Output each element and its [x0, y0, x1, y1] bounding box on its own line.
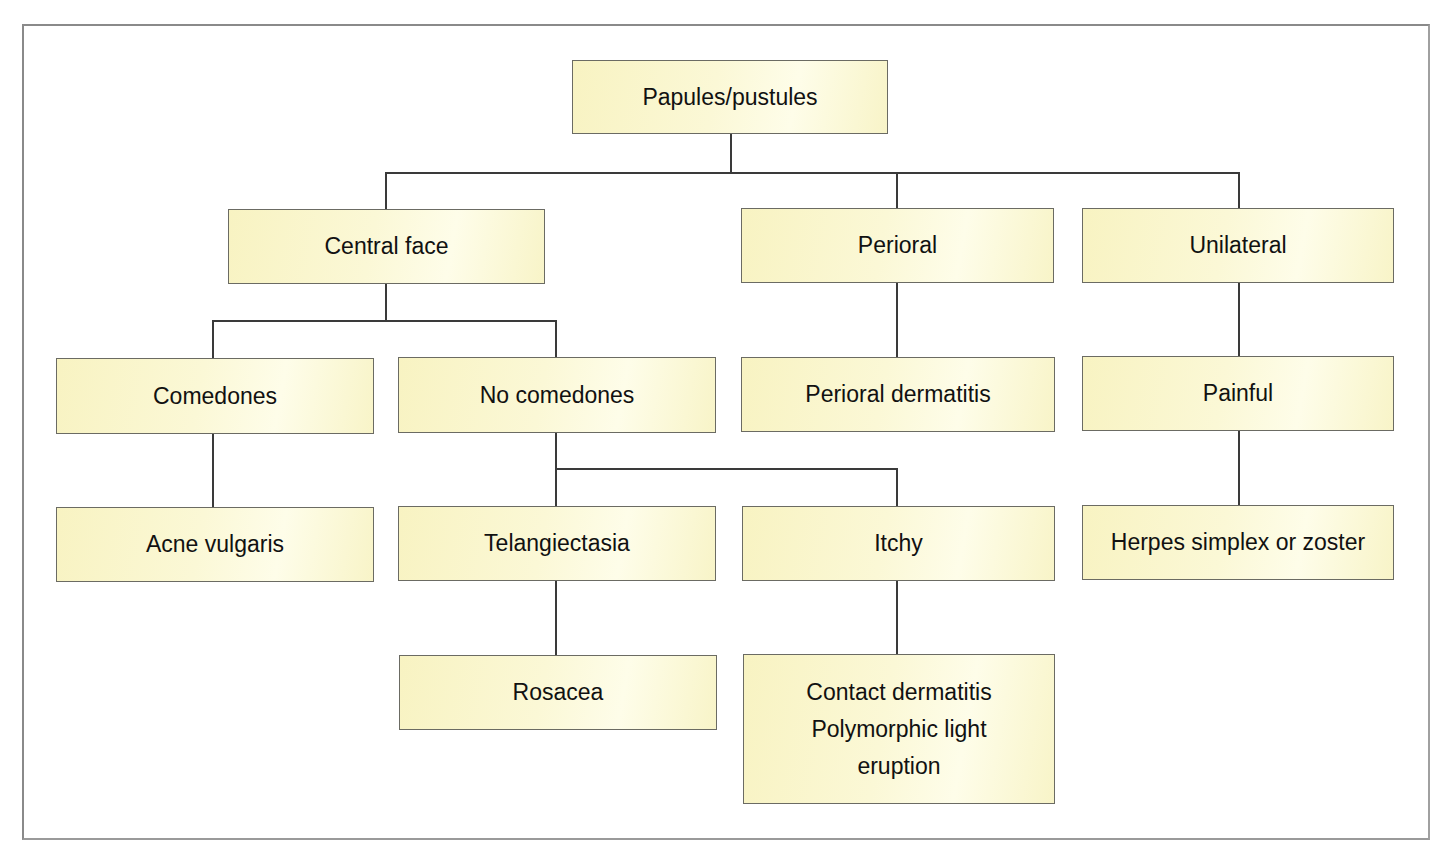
node-no-comedones: No comedones [398, 357, 716, 433]
connector [1238, 431, 1240, 507]
node-itchy: Itchy [742, 506, 1055, 581]
connector [896, 580, 898, 656]
node-papules-pustules: Papules/pustules [572, 60, 888, 134]
connector [555, 320, 557, 358]
node-acne-vulgaris: Acne vulgaris [56, 507, 374, 582]
node-central-face: Central face [228, 209, 545, 284]
connector [555, 580, 557, 656]
connector [1238, 282, 1240, 358]
node-contact-dermatitis-polymorphic: Contact dermatitis Polymorphic light eru… [743, 654, 1055, 804]
node-painful: Painful [1082, 356, 1394, 431]
connector [212, 320, 556, 322]
connector [555, 468, 898, 470]
connector [212, 320, 214, 359]
connector [896, 468, 898, 507]
connector [896, 282, 898, 358]
connector [212, 433, 214, 508]
node-herpes-simplex-zoster: Herpes simplex or zoster [1082, 505, 1394, 580]
connector [385, 283, 387, 321]
connector [896, 172, 898, 209]
connector [385, 172, 1240, 174]
connector [730, 133, 732, 173]
connector [1238, 172, 1240, 209]
node-rosacea: Rosacea [399, 655, 717, 730]
node-telangiectasia: Telangiectasia [398, 506, 716, 581]
connector [555, 432, 557, 508]
node-perioral-dermatitis: Perioral dermatitis [741, 357, 1055, 432]
node-perioral: Perioral [741, 208, 1054, 283]
node-comedones: Comedones [56, 358, 374, 434]
connector [385, 172, 387, 210]
node-unilateral: Unilateral [1082, 208, 1394, 283]
